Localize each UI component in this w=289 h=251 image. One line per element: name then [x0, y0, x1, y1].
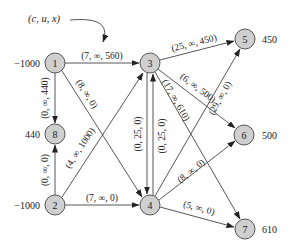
node-4: 4	[140, 195, 160, 215]
node-5-supply: 450	[262, 34, 277, 45]
node-6-label: 6	[242, 130, 247, 141]
node-7: 7 610	[235, 219, 277, 239]
annotation-pointer-arrow	[70, 20, 105, 42]
network-flow-diagram: (c, u, x) (7, ∞, 560) (8, ∞, 0) (0, ∞, 4…	[0, 0, 289, 251]
node-3-label: 3	[148, 58, 153, 69]
edge-label-2-8: (0, ∞, 0)	[40, 154, 51, 186]
node-6: 6 500	[234, 125, 277, 145]
node-1: 1 −1000	[14, 53, 65, 73]
edge-2-3	[62, 73, 143, 197]
node-8-label: 8	[53, 129, 58, 140]
node-7-label: 7	[243, 224, 248, 235]
edge-label-2-4: (7, ∞, 0)	[86, 193, 118, 204]
node-1-label: 1	[53, 58, 58, 69]
node-5-label: 5	[243, 34, 248, 45]
node-4-label: 4	[148, 200, 153, 211]
edge-label-1-3: (7, ∞, 560)	[81, 51, 123, 62]
edge-label-4-7: (5, ∞, 0)	[182, 199, 216, 218]
node-3: 3	[140, 53, 160, 73]
edge-label-1-8: (0, ∞, 440)	[40, 77, 51, 119]
node-6-supply: 500	[262, 130, 277, 141]
node-8-supply: 440	[25, 129, 40, 140]
node-8: 8 440	[25, 124, 65, 144]
annotation-label: (c, u, x)	[28, 13, 61, 25]
node-5: 5 450	[235, 29, 277, 49]
node-2-label: 2	[53, 200, 58, 211]
node-7-supply: 610	[262, 224, 277, 235]
node-1-supply: −1000	[14, 58, 40, 69]
node-2: 2 −1000	[14, 195, 65, 215]
edge-label-2-3: (4, ∞, 1000)	[63, 126, 98, 171]
node-2-supply: −1000	[14, 200, 40, 211]
edge-label-4-6: (8, ∞, 0)	[175, 157, 207, 185]
edge-label-4-3: (0, 25, 0)	[157, 119, 168, 154]
edge-label-3-4: (0, 25, 0)	[133, 117, 144, 152]
